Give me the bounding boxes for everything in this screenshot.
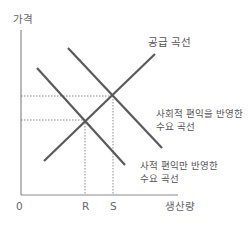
private-demand-curve <box>37 68 125 165</box>
social-demand-curve <box>68 48 162 148</box>
y-axis-label: 가격 <box>13 13 33 25</box>
x-tick-s-label: S <box>110 200 117 212</box>
x-tick-r-label: R <box>82 200 89 212</box>
origin-label: 0 <box>16 200 23 212</box>
private-demand-label-line2: 수요 곡선 <box>140 173 179 185</box>
supply-curve-label: 공급 곡선 <box>148 36 191 48</box>
social-demand-label-line1: 사회적 편익을 반영한 <box>156 108 243 120</box>
supply-curve <box>44 54 155 161</box>
private-demand-label-line1: 사적 편익만 반영한 <box>140 160 218 172</box>
social-demand-label-line2: 수요 곡선 <box>156 121 195 133</box>
x-axis-label: 생산량 <box>165 200 195 212</box>
